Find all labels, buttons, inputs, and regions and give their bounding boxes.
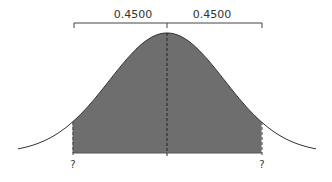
area-bracket: [74, 23, 262, 28]
left-bound-label: ?: [70, 159, 75, 170]
normal-curve-diagram: 0.4500 0.4500 ? ?: [0, 0, 332, 182]
right-bound-label: ?: [259, 159, 264, 170]
left-area-label: 0.4500: [114, 8, 153, 21]
right-area-label: 0.4500: [193, 8, 232, 21]
